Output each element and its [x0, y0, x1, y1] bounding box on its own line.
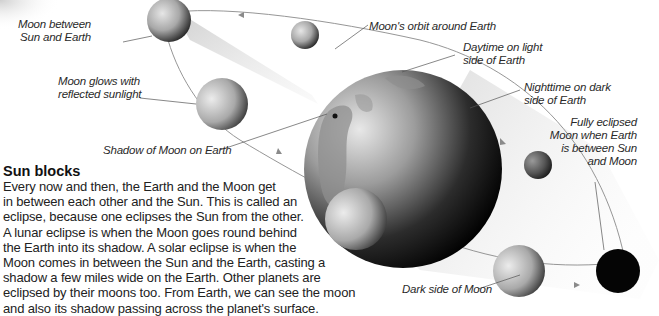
label-line: Nighttime on dark [524, 81, 611, 94]
article-heading: Sun blocks [3, 163, 80, 179]
moon-partial-eclipse [524, 151, 552, 179]
body-line: eclipsed by their moons too. From Earth,… [3, 285, 333, 300]
body-line: Every now and then, the Earth and the Mo… [3, 179, 333, 194]
label-line: Moon glows with [58, 75, 141, 88]
body-line: Moon comes in between the Sun and the Ea… [3, 255, 333, 270]
body-line: eclipse, because one eclipses the Sun fr… [3, 209, 333, 224]
label-line: Fully eclipsed [550, 116, 637, 129]
label-moon-between-sun-earth: Moon between Sun and Earth [18, 18, 91, 44]
moon-shadow-cone [172, 8, 318, 104]
body-line: shadow a few miles wide on the Earth. Ot… [3, 270, 333, 285]
label-line: and Moon [550, 155, 637, 168]
label-line: Sun and Earth [18, 31, 91, 44]
label-line: Moon when Earth [550, 129, 637, 142]
label-line: is between Sun [550, 142, 637, 155]
label-fully-eclipsed: Fully eclipsed Moon when Earth is betwee… [550, 116, 637, 168]
moon-front-earth [325, 188, 387, 250]
label-line: Daytime on light [463, 41, 542, 54]
label-moon-orbit: Moon's orbit around Earth [369, 20, 496, 33]
label-line: side of Earth [463, 54, 542, 67]
orbit-arrow-left [276, 148, 282, 154]
moon-between-sun-earth [147, 0, 191, 42]
label-dark-side-of-moon: Dark side of Moon [402, 283, 492, 296]
label-line: side of Earth [524, 94, 611, 107]
label-moon-glows: Moon glows with reflected sunlight [58, 75, 141, 101]
moon-top-small [291, 21, 319, 49]
moon-fully-eclipsed [596, 249, 640, 293]
body-line: in between each other and the Sun. This … [3, 194, 333, 209]
label-nighttime: Nighttime on dark side of Earth [524, 81, 611, 107]
article-body: Every now and then, the Earth and the Mo… [3, 179, 333, 316]
body-line: A lunar eclipse is when the Moon goes ro… [3, 225, 333, 240]
label-line: Moon between [18, 18, 91, 31]
moon-glowing [196, 78, 248, 130]
body-line: the Earth into its shadow. A solar eclip… [3, 240, 333, 255]
orbit-arrow-top [238, 12, 244, 18]
moon-dark-side [493, 245, 545, 297]
label-shadow-of-moon: Shadow of Moon on Earth [103, 144, 231, 157]
body-line: and also its shadow passing across the p… [3, 301, 333, 316]
label-daytime: Daytime on light side of Earth [463, 41, 542, 67]
label-line: reflected sunlight [58, 88, 141, 101]
